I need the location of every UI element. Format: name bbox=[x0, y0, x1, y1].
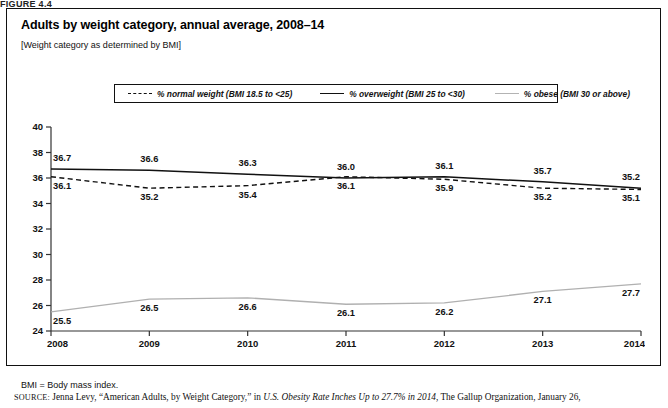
data-point-label: 26.1 bbox=[337, 308, 355, 318]
source-text-part2: , The Gallup Organization, January 26, bbox=[436, 392, 581, 402]
data-point-label: 26.5 bbox=[140, 303, 158, 313]
data-point-label: 36.3 bbox=[239, 158, 257, 168]
legend-swatch-dashed-icon bbox=[128, 89, 152, 98]
data-point-label: 35.2 bbox=[534, 192, 552, 202]
source-text-part1: Jenna Levy, “American Adults, by Weight … bbox=[50, 392, 263, 402]
chart-plot-area: 2426283032343638402008200920102011201220… bbox=[21, 121, 645, 357]
source-title-italic: U.S. Obesity Rate Inches Up to 27.7% in … bbox=[263, 392, 436, 402]
x-axis-tick-label: 2008 bbox=[47, 338, 68, 349]
data-point-label: 35.9 bbox=[435, 183, 453, 193]
x-axis-tick-label: 2010 bbox=[237, 338, 258, 349]
y-axis-tick-label: 24 bbox=[32, 325, 43, 336]
data-point-label: 35.1 bbox=[622, 193, 640, 203]
data-point-label: 35.4 bbox=[239, 190, 258, 200]
data-point-label: 27.7 bbox=[622, 288, 640, 298]
legend-item-obese: % obese (BMI 30 or above) bbox=[495, 89, 630, 99]
figure-box: Adults by weight category, annual averag… bbox=[6, 8, 661, 366]
data-point-label: 36.1 bbox=[53, 181, 71, 191]
data-point-label: 36.6 bbox=[140, 154, 158, 164]
figure-number-label: FIGURE 4.4 bbox=[0, 0, 120, 7]
data-point-label: 26.6 bbox=[239, 302, 257, 312]
x-axis-tick-label: 2009 bbox=[139, 338, 160, 349]
y-axis-tick-label: 34 bbox=[32, 198, 43, 209]
chart-subtitle: [Weight category as determined by BMI] bbox=[21, 40, 181, 50]
chart-legend: % normal weight (BMI 18.5 to <25) % over… bbox=[114, 84, 558, 103]
legend-label-overweight: % overweight (BMI 25 to <30) bbox=[349, 89, 465, 99]
chart-title: Adults by weight category, annual averag… bbox=[21, 18, 324, 32]
data-point-label: 36.0 bbox=[337, 162, 355, 172]
chart-footnote: BMI = Body mass index. bbox=[21, 380, 118, 390]
legend-label-obese: % obese (BMI 30 or above) bbox=[524, 89, 630, 99]
y-axis-tick-label: 28 bbox=[32, 274, 43, 285]
y-axis-tick-label: 36 bbox=[32, 172, 43, 183]
data-point-label: 36.7 bbox=[53, 153, 71, 163]
legend-swatch-light-icon bbox=[495, 89, 519, 98]
x-axis-tick-label: 2014 bbox=[624, 338, 645, 349]
data-point-label: 26.2 bbox=[435, 307, 453, 317]
legend-item-overweight: % overweight (BMI 25 to <30) bbox=[320, 89, 465, 99]
data-point-label: 36.1 bbox=[337, 181, 355, 191]
x-axis-tick-label: 2013 bbox=[532, 338, 553, 349]
y-axis-tick-label: 38 bbox=[32, 147, 43, 158]
y-axis-tick-label: 30 bbox=[32, 249, 43, 260]
x-axis-tick-label: 2011 bbox=[336, 338, 357, 349]
source-kicker: SOURCE: bbox=[14, 393, 50, 402]
legend-label-normal-weight: % normal weight (BMI 18.5 to <25) bbox=[157, 89, 292, 99]
data-point-label: 35.2 bbox=[140, 192, 158, 202]
legend-item-normal-weight: % normal weight (BMI 18.5 to <25) bbox=[128, 89, 292, 99]
data-point-label: 25.5 bbox=[53, 316, 71, 326]
y-axis-tick-label: 32 bbox=[32, 223, 43, 234]
line-chart-svg: 2426283032343638402008200920102011201220… bbox=[21, 121, 645, 357]
x-axis-tick-label: 2012 bbox=[434, 338, 455, 349]
source-citation: SOURCE: Jenna Levy, “American Adults, by… bbox=[14, 392, 662, 402]
y-axis-tick-label: 40 bbox=[32, 121, 43, 132]
y-axis-tick-label: 26 bbox=[32, 300, 43, 311]
data-point-label: 27.1 bbox=[534, 295, 552, 305]
legend-swatch-solid-icon bbox=[320, 89, 344, 98]
data-point-label: 35.7 bbox=[534, 166, 552, 176]
data-point-label: 35.2 bbox=[622, 172, 640, 182]
data-point-label: 36.1 bbox=[435, 161, 453, 171]
